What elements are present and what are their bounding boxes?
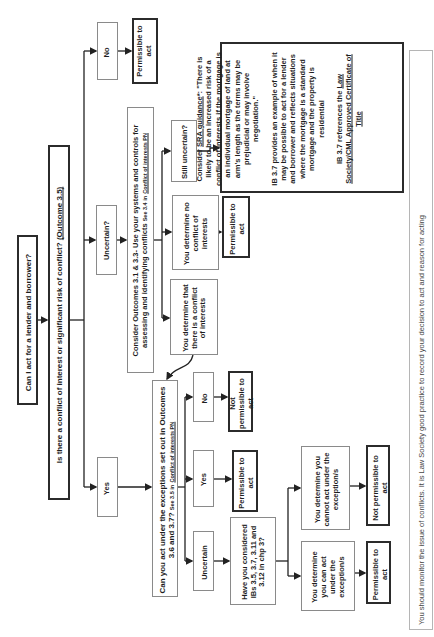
sra-para1-prefix: Consider bbox=[194, 146, 203, 181]
answer-no-box: No bbox=[97, 22, 118, 80]
no-conflict-text: You determine no conflict of interests bbox=[183, 199, 210, 268]
sra-para2: IB 3.7 provides an example of when it ma… bbox=[269, 51, 325, 186]
sra-para3-prefix: IB 3.7 references the bbox=[334, 88, 343, 163]
outcome-3-5-link[interactable]: (Outcome 3.5) bbox=[54, 186, 63, 239]
answer-yes-box: Yes bbox=[97, 457, 118, 517]
answer-yes-text: Yes bbox=[102, 482, 111, 495]
permissible-final-text: Permissible to act bbox=[372, 546, 390, 603]
answer-uncertain-exc-text: Uncertain bbox=[200, 545, 209, 580]
start-question-text: Can I act for a lender and borrower? bbox=[23, 253, 32, 390]
consider-outcomes-ref: See 3.4 in bbox=[141, 195, 147, 220]
exceptions-pn-link[interactable]: Conflict of interests PN bbox=[168, 421, 174, 482]
answer-no-text: No bbox=[102, 47, 111, 57]
permissible-to-act-box: Permissible to act bbox=[132, 18, 158, 84]
answer-uncertain-text: Uncertain? bbox=[102, 220, 111, 259]
footer-note-text: You should monitor the issue of conflict… bbox=[418, 215, 427, 625]
cannot-act-box: You determine you cannot act under the e… bbox=[301, 446, 350, 530]
permissible-to-act-text: Permissible to act bbox=[136, 21, 154, 81]
answer-yes-exc-box: Yes bbox=[193, 450, 214, 507]
sra-guidance-box: Consider SRA guidance*: "There is likely… bbox=[220, 42, 404, 193]
permissible-exc-text: Permissible to act bbox=[238, 455, 256, 511]
can-act-box: You determine you can act under the exce… bbox=[301, 541, 355, 611]
footer-note-box: You should monitor the issue of conflict… bbox=[409, 50, 433, 630]
not-permissible-final-box: Not permissible to act bbox=[366, 445, 390, 526]
conflict-pn-link[interactable]: Conflict of interests PN bbox=[141, 133, 147, 194]
not-permissible-exc-text: Not permissible to act bbox=[229, 376, 256, 431]
is-conflict-box: You determine that there is a conflict o… bbox=[170, 279, 218, 355]
is-conflict-text: You determine that there is a conflict o… bbox=[182, 283, 209, 353]
answer-no-exc-text: No bbox=[200, 393, 209, 403]
conflict-question-box: Is there a conflict of interest or signi… bbox=[48, 145, 70, 500]
sra-para1-suffix: *: "There is likely to be an increased r… bbox=[194, 52, 259, 186]
answer-yes-exc-text: Yes bbox=[200, 473, 209, 486]
cannot-act-text: You determine you cannot act under the e… bbox=[313, 450, 340, 528]
no-conflict-box: You determine no conflict of interests bbox=[172, 195, 219, 270]
not-permissible-exc-box: Not permissible to act bbox=[228, 371, 253, 432]
consider-outcomes-box: Consider Outcomes 3.1 & 3.3- Use your sy… bbox=[127, 107, 154, 373]
start-question-box: Can I act for a lender and borrower? bbox=[17, 235, 38, 405]
sra-guidance-link[interactable]: SRA guidance bbox=[194, 96, 203, 147]
answer-uncertain-box: Uncertain? bbox=[96, 205, 117, 275]
not-permissible-final-text: Not permissible to act bbox=[371, 450, 389, 525]
answer-no-exc-box: No bbox=[193, 372, 214, 422]
connector bbox=[167, 355, 193, 379]
permissible-mid-box: Permissible to act bbox=[222, 196, 250, 258]
can-act-text: You determine you can act under the exce… bbox=[311, 545, 346, 609]
exceptions-ref: See 3.5 in bbox=[168, 484, 174, 509]
considered-ibs-box: Have you considered IBs 3.5, 3.7, 3.11 a… bbox=[230, 517, 276, 605]
permissible-exc-box: Permissible to act bbox=[232, 450, 258, 512]
considered-ibs-text: Have you considered IBs 3.5, 3.7, 3.11 a… bbox=[241, 521, 268, 603]
permissible-mid-text: Permissible to act bbox=[229, 201, 247, 257]
conflict-question-text: Is there a conflict of interest or signi… bbox=[54, 242, 63, 463]
answer-uncertain-exc-box: Uncertain bbox=[193, 531, 214, 591]
permissible-final-box: Permissible to act bbox=[366, 541, 391, 604]
exceptions-question-box: Can you act under the exceptions set out… bbox=[152, 380, 178, 597]
